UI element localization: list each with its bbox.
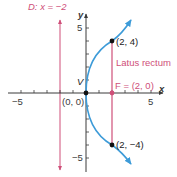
vertex-label: V <box>77 76 83 87</box>
latus-top-point <box>110 39 115 44</box>
bottom-point-label: (2, −4) <box>116 139 144 150</box>
top-point-label: (2, 4) <box>116 36 138 47</box>
origin-label: (0, 0) <box>62 96 84 107</box>
y-axis-label: y <box>78 9 83 20</box>
x-tick-label-neg5: −5 <box>12 96 23 107</box>
latus-rectum-label: Latus rectum <box>116 57 171 68</box>
y-tick-label-neg5: −5 <box>72 152 83 163</box>
x-tick-label-5: 5 <box>148 96 153 107</box>
directrix-label: D: x = −2 <box>28 1 67 12</box>
focus-label: F = (2, 0) <box>115 80 154 91</box>
vertex-point <box>84 91 89 96</box>
x-axis-label: x <box>159 83 164 94</box>
parabola-curve-lower <box>86 93 131 164</box>
latus-bottom-point <box>110 143 115 148</box>
y-tick-label-5: 5 <box>77 22 82 33</box>
focus-point <box>110 91 115 96</box>
